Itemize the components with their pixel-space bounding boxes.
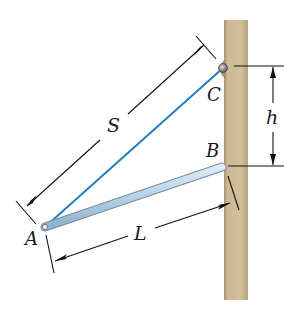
statics-diagram: S L h A B C xyxy=(0,0,304,309)
label-L: L xyxy=(133,222,147,244)
bar-AB xyxy=(45,167,222,227)
pin-A xyxy=(43,225,48,230)
label-A: A xyxy=(23,228,38,249)
cable-AC xyxy=(45,68,223,227)
label-h: h xyxy=(266,106,278,128)
pin-C xyxy=(219,64,228,73)
wall xyxy=(224,20,248,300)
label-C: C xyxy=(207,84,221,105)
label-S: S xyxy=(107,114,120,136)
label-B: B xyxy=(205,140,219,161)
